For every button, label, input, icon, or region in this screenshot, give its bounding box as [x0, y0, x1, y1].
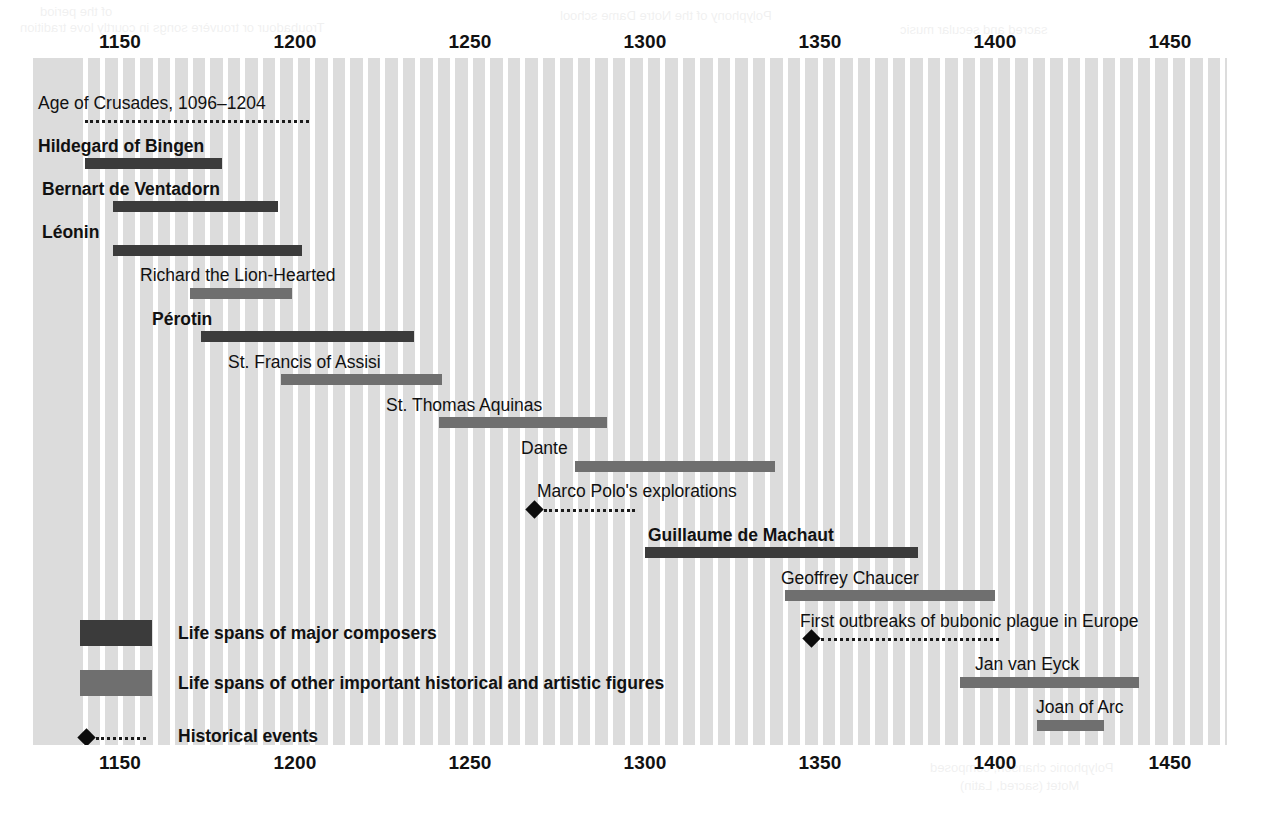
diamond-icon: [77, 728, 95, 745]
axis-tick-1250: 1250: [448, 31, 491, 53]
row-label: Age of Crusades, 1096–1204: [38, 95, 266, 113]
timeline-row[interactable]: Guillaume de Machaut: [33, 514, 1227, 558]
legend-event-marker-icon: [80, 729, 152, 745]
row-label: Joan of Arc: [1036, 699, 1124, 717]
axis-tick-1350: 1350: [798, 752, 841, 774]
axis-tick-1200: 1200: [273, 752, 316, 774]
row-label: Jan van Eyck: [975, 656, 1079, 674]
axis-tick-1350: 1350: [798, 31, 841, 53]
legend-swatch-figure: [80, 670, 152, 696]
row-label: Geoffrey Chaucer: [781, 570, 919, 588]
axis-tick-1150: 1150: [99, 31, 141, 53]
timeline-row[interactable]: Pérotin: [33, 298, 1227, 342]
legend-item-figure: Life spans of other important historical…: [80, 670, 664, 696]
axis-tick-1400: 1400: [973, 31, 1016, 53]
row-label: Léonin: [42, 224, 99, 242]
axis-tick-1300: 1300: [623, 752, 666, 774]
row-label: Guillaume de Machaut: [648, 527, 834, 545]
axis-tick-1300: 1300: [623, 31, 666, 53]
axis-tick-1450: 1450: [1148, 31, 1191, 53]
legend-label: Life spans of major composers: [178, 623, 437, 644]
event-dotted-line: [85, 120, 309, 123]
row-label: Pérotin: [152, 311, 212, 329]
axis-tick-1150: 1150: [99, 752, 141, 774]
legend-item-composer: Life spans of major composers: [80, 620, 437, 646]
timeline-row[interactable]: Marco Polo's explorations: [33, 471, 1227, 515]
timeline-row[interactable]: Geoffrey Chaucer: [33, 557, 1227, 601]
row-label: Dante: [521, 440, 568, 458]
event-dotted-line: [544, 509, 635, 512]
row-label: Hildegard of Bingen: [38, 138, 204, 156]
legend-label: Historical events: [178, 726, 318, 745]
row-label: Marco Polo's explorations: [537, 483, 737, 501]
timeline-row[interactable]: St. Thomas Aquinas: [33, 384, 1227, 428]
axis-tick-1200: 1200: [273, 31, 316, 53]
timeline-row[interactable]: Léonin: [33, 212, 1227, 256]
event-dotted-line: [821, 638, 999, 641]
plot-area: Age of Crusades, 1096–1204Hildegard of B…: [33, 58, 1227, 745]
row-label: Bernart de Ventadorn: [42, 181, 220, 199]
axis-tick-1450: 1450: [1148, 752, 1191, 774]
row-label: St. Thomas Aquinas: [386, 397, 542, 415]
timeline-row[interactable]: Hildegard of Bingen: [33, 125, 1227, 169]
dotted-line-icon: [96, 737, 146, 740]
timeline-row[interactable]: Bernart de Ventadorn: [33, 168, 1227, 212]
timeline-row[interactable]: Dante: [33, 428, 1227, 472]
axis-tick-1250: 1250: [448, 752, 491, 774]
timeline-chart: Age of Crusades, 1096–1204Hildegard of B…: [0, 0, 1275, 821]
row-label: Richard the Lion-Hearted: [140, 267, 336, 285]
row-label: St. Francis of Assisi: [228, 354, 381, 372]
timeline-row[interactable]: Richard the Lion-Hearted: [33, 255, 1227, 299]
axis-tick-1400: 1400: [973, 752, 1016, 774]
lifespan-bar: [1037, 720, 1104, 731]
legend-item-event: Historical events: [80, 726, 318, 745]
legend-swatch-composer: [80, 620, 152, 646]
timeline-row[interactable]: Age of Crusades, 1096–1204: [33, 82, 1227, 126]
legend-label: Life spans of other important historical…: [178, 673, 664, 694]
timeline-row[interactable]: St. Francis of Assisi: [33, 341, 1227, 385]
row-label: First outbreaks of bubonic plague in Eur…: [800, 613, 1139, 631]
